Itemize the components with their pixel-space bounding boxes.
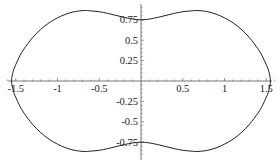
- x-tick-label: 1: [222, 83, 227, 94]
- x-tick-label: 1.5: [260, 83, 273, 94]
- chart-plot: -1.5-1-0.50.511.5 0.750.50.25-0.25-0.5-0…: [0, 0, 280, 163]
- x-tick-label: -0.5: [91, 83, 108, 94]
- y-axis: 0.750.50.25-0.25-0.5-0.75: [116, 4, 144, 160]
- y-tick-label: -0.5: [121, 116, 138, 127]
- y-tick-label: 0.5: [125, 35, 138, 46]
- y-tick-label: -0.25: [116, 96, 138, 107]
- x-tick-label: 0.5: [176, 83, 189, 94]
- x-tick-label: -1: [53, 83, 62, 94]
- x-tick-label: -1.5: [7, 83, 24, 94]
- y-tick-label: 0.25: [120, 55, 138, 66]
